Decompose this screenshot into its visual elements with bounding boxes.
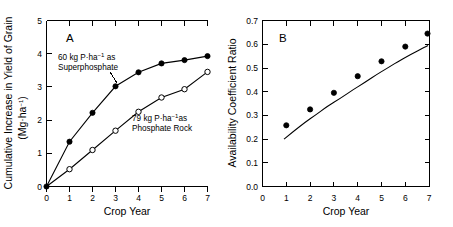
panel-b-xtick-6: 6 bbox=[403, 193, 408, 203]
panel-a-y-ticks bbox=[47, 21, 52, 187]
panel-a-xtick-1: 1 bbox=[67, 193, 72, 203]
panel-a-xtick-2: 2 bbox=[90, 193, 95, 203]
panel-b-xtick-5: 5 bbox=[379, 193, 384, 203]
panel-a-xtick-5: 5 bbox=[159, 193, 164, 203]
panel-a-anno1-leader bbox=[110, 72, 117, 83]
panel-a-ytick-5: 5 bbox=[37, 16, 42, 26]
panel-b-label: B bbox=[279, 32, 287, 44]
panel-a-anno2-a: 79 kg P·ha bbox=[132, 114, 172, 123]
panel-a-anno1-a: 60 kg P·ha bbox=[58, 53, 98, 62]
panel-b-plot: 0.0 0.1 0.2 0.3 0.4 0.5 0.6 0.7 0 1 2 3 … bbox=[222, 0, 453, 227]
panel-b-fit-curve bbox=[284, 46, 428, 140]
panel-a-anno1-b: as bbox=[104, 53, 115, 62]
panel-a-ytick-0: 0 bbox=[37, 182, 42, 192]
panel-b-y-axis-title: Availability Coefficient Ratio bbox=[226, 38, 238, 167]
panel-a-xtick-6: 6 bbox=[182, 193, 187, 203]
panel-a-anno2-line2: Phosphate Rock bbox=[132, 124, 193, 133]
panel-b-x-axis-title: Crop Year bbox=[323, 205, 370, 217]
panel-b-ytick-2: 0.2 bbox=[246, 134, 258, 144]
panel-a-annotation-superphosphate: 60 kg P·ha−1 as Superphosphate bbox=[58, 52, 119, 83]
panel-b-series-markers bbox=[284, 31, 430, 128]
panel-b: 0.0 0.1 0.2 0.3 0.4 0.5 0.6 0.7 0 1 2 3 … bbox=[222, 0, 453, 227]
svg-text:(Mg·ha−1): (Mg·ha−1) bbox=[16, 96, 28, 140]
panel-a: 0 1 2 3 4 5 0 1 2 3 4 5 6 7 Crop Year Cu… bbox=[0, 0, 222, 227]
panel-a-ytick-4: 4 bbox=[37, 49, 42, 59]
panel-a-label: A bbox=[66, 32, 74, 44]
panel-b-ytick-7: 0.7 bbox=[246, 16, 258, 26]
panel-a-y-axis-title-line1: Cumulative Increase in Yield of Grain bbox=[2, 16, 14, 189]
panel-a-xtick-7: 7 bbox=[205, 193, 210, 203]
panel-b-ytick-3: 0.3 bbox=[246, 110, 258, 120]
panel-b-xtick-7: 7 bbox=[427, 193, 432, 203]
panel-b-ytick-0: 0.0 bbox=[246, 182, 258, 192]
panel-a-xtick-4: 4 bbox=[136, 193, 141, 203]
panel-a-ytick-1: 1 bbox=[37, 148, 42, 158]
panel-a-y-axis-title-line2: (Mg·ha−1) bbox=[16, 96, 28, 140]
svg-text:60 kg P·ha−1 as: 60 kg P·ha−1 as bbox=[58, 52, 115, 62]
panel-b-ytick-1: 0.1 bbox=[246, 158, 258, 168]
panel-a-x-axis-title: Crop Year bbox=[104, 205, 151, 217]
panel-a-plot: 0 1 2 3 4 5 0 1 2 3 4 5 6 7 Crop Year Cu… bbox=[0, 0, 222, 227]
panel-b-xtick-4: 4 bbox=[355, 193, 360, 203]
panel-b-ytick-5: 0.5 bbox=[246, 63, 258, 73]
panel-a-y-unit-end: ) bbox=[16, 96, 28, 100]
panel-a-y-unit-main: (Mg·ha bbox=[16, 106, 28, 139]
panel-b-xtick-0: 0 bbox=[260, 193, 265, 203]
panel-a-ytick-3: 3 bbox=[37, 82, 42, 92]
panel-a-xtick-0: 0 bbox=[44, 193, 49, 203]
panel-b-xtick-1: 1 bbox=[284, 193, 289, 203]
panel-a-anno1-line2: Superphosphate bbox=[58, 63, 119, 72]
panel-b-xtick-2: 2 bbox=[308, 193, 313, 203]
figure-container: 0 1 2 3 4 5 0 1 2 3 4 5 6 7 Crop Year Cu… bbox=[0, 0, 453, 227]
panel-b-ytick-4: 0.4 bbox=[246, 87, 258, 97]
panel-a-ytick-2: 2 bbox=[37, 115, 42, 125]
panel-a-anno2-b: as bbox=[178, 114, 187, 123]
panel-b-ytick-6: 0.6 bbox=[246, 39, 258, 49]
panel-a-annotation-phosphate-rock: 79 kg P·ha−1as Phosphate Rock bbox=[132, 113, 193, 133]
panel-b-xtick-3: 3 bbox=[332, 193, 337, 203]
svg-text:79 kg P·ha−1as: 79 kg P·ha−1as bbox=[132, 113, 187, 123]
panel-a-top-ticks bbox=[47, 21, 208, 26]
panel-a-x-ticks bbox=[47, 187, 208, 192]
panel-a-xtick-3: 3 bbox=[113, 193, 118, 203]
